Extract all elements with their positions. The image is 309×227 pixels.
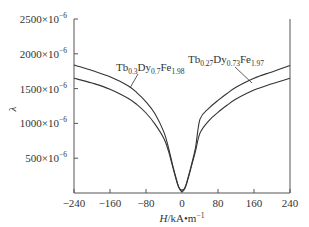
x-tick-label: −160 [99, 197, 122, 209]
series-line-0 [74, 65, 290, 190]
annotations: Tb0.3Dy0.7Fe1.98Tb0.27Dy0.73Fe1.97 [116, 53, 264, 88]
x-axis-label: H/kA•m−1 [159, 211, 205, 224]
y-axis-label: λ [6, 106, 18, 112]
x-tick-label: 80 [213, 197, 225, 209]
series-line-1 [74, 78, 290, 191]
series-annotation-1: Tb0.27Dy0.73Fe1.97 [188, 53, 264, 68]
x-tick-label: 0 [179, 197, 185, 209]
curves [74, 65, 290, 192]
leader-line [235, 67, 252, 83]
axes: −240−160−80080160240500×10−61000×10−6150… [6, 11, 299, 224]
y-tick-label: 2500×10−6 [20, 11, 67, 25]
leader-line [130, 74, 138, 88]
y-tick-label: 500×10−6 [25, 150, 67, 164]
x-tick-label: −240 [63, 197, 86, 209]
y-tick-label: 1000×10−6 [20, 115, 67, 129]
axis-frame [74, 19, 290, 193]
x-tick-label: 160 [246, 197, 263, 209]
magnetostriction-chart: −240−160−80080160240500×10−61000×10−6150… [0, 0, 309, 227]
x-tick-label: 240 [282, 197, 299, 209]
x-tick-label: −80 [137, 197, 155, 209]
y-tick-label: 1500×10−6 [20, 81, 67, 95]
y-tick-label: 2000×10−6 [20, 46, 67, 60]
series-annotation-0: Tb0.3Dy0.7Fe1.98 [116, 61, 185, 76]
